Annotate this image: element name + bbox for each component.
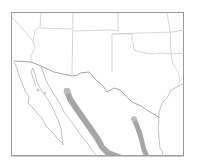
range-band-east-tip (131, 116, 137, 122)
range-band-west-tip (64, 88, 71, 95)
range-map (0, 0, 197, 167)
